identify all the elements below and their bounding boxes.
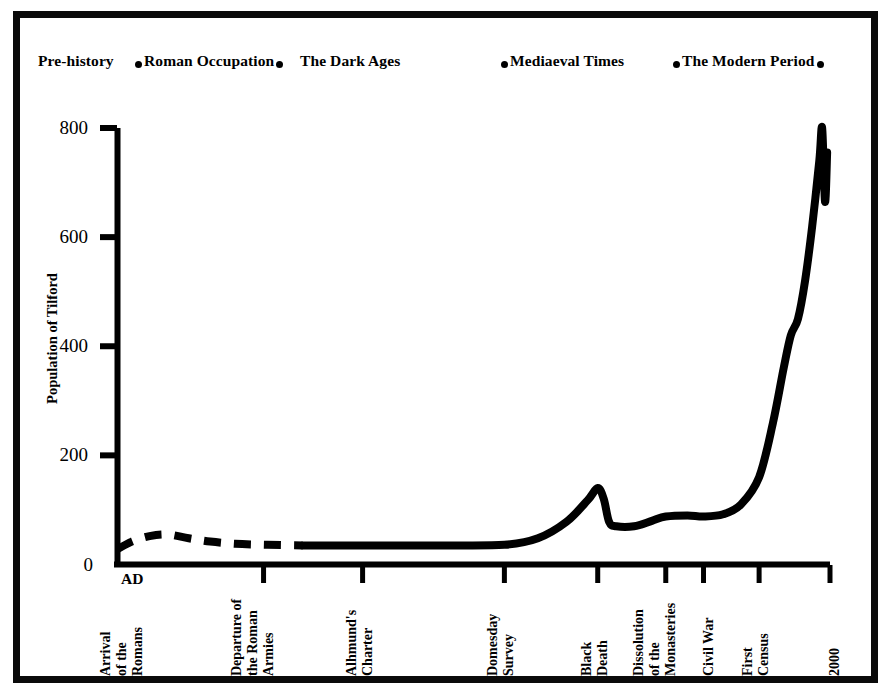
figure-root: Pre-historyRoman OccupationThe Dark Ages… [0,0,894,697]
x-tick-label: Arrivalof theRomans [98,627,146,676]
x-tick-label-line: Census [756,633,772,676]
y-tick-label: 600 [28,227,88,246]
x-tick-label-line: Domesday [485,614,501,676]
x-tick-label: Dissolutionof theMonasteries [631,603,679,676]
x-axis-origin-label: AD [121,570,143,588]
y-tick-label: 0 [33,555,93,574]
y-tick-label: 200 [28,445,88,464]
x-tick-label: Alhmund'sCharter [344,610,376,676]
x-tick-label-line: of the [114,627,130,676]
x-tick-label-line: Alhmund's [344,610,360,676]
x-tick-label-line: First [740,633,756,676]
x-tick-label-line: Black [579,640,595,676]
x-tick-label-line: Monasteries [663,603,679,676]
y-axis-tick-marks [100,128,117,455]
population-curve-recorded-solid [303,127,827,546]
x-tick-label-line: Departure of [229,599,245,676]
x-tick-label: 2000 [827,648,843,676]
x-tick-label-line: Charter [360,610,376,676]
x-tick-label-line: Death [595,640,611,676]
x-tick-label-line: Civil War [701,618,717,676]
chart-plot-area [0,0,894,697]
x-tick-label: Departure ofthe RomanArmies [229,599,277,676]
x-tick-label-line: Romans [130,627,146,676]
y-tick-label: 400 [28,336,88,355]
population-curve-prehistoric-dashed [118,534,303,549]
x-tick-label: DomesdaySurvey [485,614,517,676]
x-tick-label: BlackDeath [579,640,611,676]
axis-lines [114,128,830,567]
x-tick-label: Civil War [701,618,717,676]
x-tick-label-line: Dissolution [631,603,647,676]
x-tick-label: FirstCensus [740,633,772,676]
x-tick-label-line: the Roman [245,599,261,676]
x-tick-label-line: Arrival [98,627,114,676]
y-tick-label: 800 [28,118,88,137]
x-axis-tick-marks [264,565,830,583]
x-tick-label-line: Survey [501,614,517,676]
x-tick-label-line: 2000 [827,648,843,676]
x-tick-label-line: Armies [260,599,276,676]
x-tick-label-line: of the [647,603,663,676]
